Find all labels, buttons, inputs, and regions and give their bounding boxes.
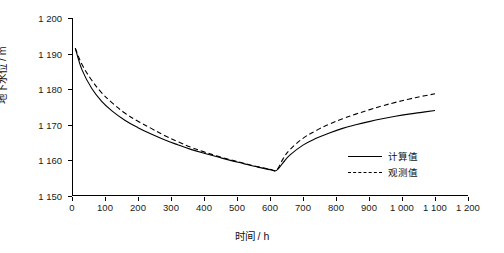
legend-label-observed: 观测值	[388, 165, 418, 179]
legend-label-calculated: 计算值	[388, 149, 418, 163]
series-lines	[0, 0, 504, 253]
y-axis-title: 地下水位 / m	[0, 47, 9, 105]
legend-line-dashed-icon	[348, 168, 382, 177]
groundwater-level-chart: 1 1501 1601 1701 1801 1901 200 010020030…	[0, 0, 504, 253]
legend: 计算值 观测值	[348, 148, 418, 180]
x-axis-title: 时间 / h	[0, 228, 504, 243]
legend-item-calculated: 计算值	[348, 148, 418, 164]
legend-line-solid-icon	[348, 152, 382, 161]
legend-item-observed: 观测值	[348, 164, 418, 180]
